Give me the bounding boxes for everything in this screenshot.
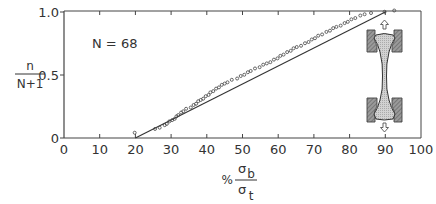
- tensile-specimen-inset: [367, 20, 402, 132]
- x-tick-label: 10: [91, 142, 108, 157]
- arrow-down-icon: [381, 123, 389, 132]
- x-tick-label: 100: [409, 142, 434, 157]
- data-point: [300, 44, 303, 47]
- data-point: [185, 107, 188, 110]
- y-label-numerator: n: [26, 59, 34, 73]
- data-point: [202, 97, 205, 100]
- arrow-up-icon: [381, 20, 389, 29]
- data-point: [289, 49, 292, 52]
- data-point: [339, 24, 342, 27]
- data-point: [269, 61, 272, 64]
- data-point: [243, 73, 246, 76]
- x-label-denominator-sub: t: [249, 189, 254, 203]
- x-tick-label: 40: [199, 142, 216, 157]
- data-point: [359, 14, 362, 17]
- x-tick-label: 30: [163, 142, 180, 157]
- data-point: [286, 51, 289, 54]
- data-point: [279, 54, 282, 57]
- sample-size-annotation: N = 68: [92, 36, 137, 51]
- data-point: [158, 126, 161, 129]
- data-point: [346, 20, 349, 23]
- data-point: [258, 66, 261, 69]
- y-tick-label: 1.0: [38, 5, 59, 20]
- data-point: [332, 27, 335, 30]
- data-point: [325, 30, 328, 33]
- data-point: [317, 34, 320, 37]
- x-label-numerator: σ: [238, 161, 246, 176]
- x-label-numerator-sub: b: [247, 167, 255, 181]
- data-point: [295, 46, 298, 49]
- data-point: [310, 38, 313, 41]
- data-point: [292, 47, 295, 50]
- x-tick-label: 0: [60, 142, 68, 157]
- data-point: [239, 75, 242, 78]
- data-point: [313, 37, 316, 40]
- data-point: [276, 57, 279, 60]
- data-point: [133, 131, 136, 134]
- data-points: [133, 9, 396, 134]
- y-axis-tick-labels: 00.51.0: [38, 5, 59, 146]
- data-point: [265, 62, 268, 65]
- data-point: [212, 90, 215, 93]
- x-axis-tick-labels: 0102030405060708090100: [60, 142, 434, 157]
- data-point: [236, 77, 239, 80]
- data-point: [321, 33, 324, 36]
- data-point: [335, 25, 338, 28]
- x-tick-label: 80: [341, 142, 358, 157]
- x-tick-label: 20: [127, 142, 144, 157]
- data-point: [262, 63, 265, 66]
- data-point: [303, 42, 306, 45]
- y-label-denominator: N+1: [17, 77, 44, 91]
- data-point: [217, 86, 220, 89]
- data-point: [189, 106, 192, 109]
- y-tick-label: 0: [51, 131, 59, 146]
- data-point: [226, 81, 229, 84]
- chart: 0102030405060708090100 00.51.0 N = 68 n …: [0, 0, 436, 204]
- data-point: [370, 12, 373, 15]
- data-point: [307, 41, 310, 44]
- data-point: [363, 13, 366, 16]
- x-axis-label: % σ b σ t: [222, 161, 257, 203]
- data-point: [249, 69, 252, 72]
- data-point: [350, 18, 353, 21]
- data-point: [272, 58, 275, 61]
- data-point: [343, 22, 346, 25]
- x-tick-label: 90: [377, 142, 394, 157]
- x-tick-label: 60: [270, 142, 287, 157]
- data-point: [253, 67, 256, 70]
- data-point: [328, 29, 331, 32]
- x-label-percent: %: [222, 173, 233, 187]
- x-tick-label: 50: [234, 142, 251, 157]
- x-tick-label: 70: [306, 142, 323, 157]
- data-point: [230, 78, 233, 81]
- data-point: [354, 17, 357, 20]
- data-point: [282, 53, 285, 56]
- x-axis-top-ticks: [100, 11, 386, 15]
- x-label-denominator: σ: [238, 182, 246, 197]
